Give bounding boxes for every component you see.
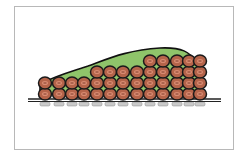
surface-attachments — [40, 102, 205, 106]
biofilm-diagram — [0, 0, 241, 158]
